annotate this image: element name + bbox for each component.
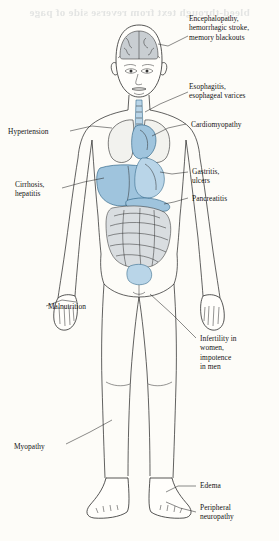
label-peripheral-neuropathy: Peripheral neuropathy xyxy=(200,503,234,522)
label-line: Infertility in xyxy=(200,334,237,343)
label-line: impotence xyxy=(200,353,237,362)
label-gastritis: Gastritis, ulcers xyxy=(192,167,219,186)
label-line: Hypertension xyxy=(8,127,48,136)
label-line: Esophagitis, xyxy=(189,82,246,91)
leader-pancreatitis xyxy=(164,198,188,204)
label-encephalopathy: Encephalopathy, hemorrhagic stroke, memo… xyxy=(189,14,249,42)
leader-hypertension xyxy=(70,126,112,131)
label-line: Gastritis, xyxy=(192,167,219,176)
label-line: Malnutrition xyxy=(48,302,86,311)
label-cardiomyopathy: Cardiomyopathy xyxy=(191,120,241,129)
label-line: Cirrhosis, xyxy=(15,180,44,189)
label-line: esophageal varices xyxy=(189,91,246,100)
label-line: neuropathy xyxy=(200,512,234,521)
label-pancreatitis: Pancreatitis xyxy=(192,194,227,203)
intestines-organ xyxy=(106,206,171,268)
label-malnutrition: Malnutrition xyxy=(48,302,86,311)
label-esophagitis: Esophagitis, esophageal varices xyxy=(189,82,246,101)
label-line: Myopathy xyxy=(14,442,45,451)
label-line: Pancreatitis xyxy=(192,194,227,203)
label-edema: Edema xyxy=(200,481,221,490)
stomach-organ xyxy=(135,158,165,198)
label-line: Edema xyxy=(200,481,221,490)
label-line: Cardiomyopathy xyxy=(191,120,241,129)
label-line: hemorrhagic stroke, xyxy=(189,23,249,32)
label-hypertension: Hypertension xyxy=(8,127,48,136)
leader-infertility xyxy=(150,294,196,338)
bladder-organ xyxy=(127,264,152,296)
label-line: women, xyxy=(200,343,237,352)
label-line: Encephalopathy, xyxy=(189,14,249,23)
leader-myopathy xyxy=(66,420,112,444)
label-line: ulcers xyxy=(192,176,219,185)
label-cirrhosis: Cirrhosis, hepatitis xyxy=(15,180,44,199)
label-line: in men xyxy=(200,362,237,371)
illustration-page: bleed-through text from reverse side of … xyxy=(0,0,279,541)
leader-esophagitis xyxy=(145,92,188,112)
label-line: memory blackouts xyxy=(189,33,249,42)
label-infertility: Infertility in women, impotence in men xyxy=(200,334,237,372)
label-myopathy: Myopathy xyxy=(14,442,45,451)
leader-lines xyxy=(46,36,196,512)
right-hand xyxy=(201,295,225,330)
left-hand xyxy=(54,295,78,330)
leader-encephalopathy xyxy=(158,36,188,46)
label-line: hepatitis xyxy=(15,189,44,198)
label-line: Peripheral xyxy=(200,503,234,512)
